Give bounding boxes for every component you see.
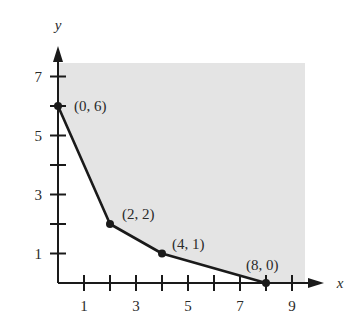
y-tick-label: 5 — [35, 128, 43, 144]
vertex-point — [54, 102, 62, 110]
x-tick-label: 1 — [80, 298, 88, 314]
vertex-point — [106, 220, 114, 228]
x-tick-label: 9 — [288, 298, 296, 314]
vertex-label: (0, 6) — [74, 98, 107, 115]
x-axis-label: x — [336, 275, 344, 291]
y-tick-label: 1 — [35, 246, 43, 262]
x-tick-label: 3 — [132, 298, 140, 314]
vertex-point — [262, 279, 270, 287]
y-tick-label: 7 — [35, 69, 43, 85]
y-tick-label: 3 — [35, 187, 43, 203]
feasible-region-chart: 1 3 5 7 9 1 3 5 7 x y (0, 6) (2, 2) (4, … — [0, 0, 355, 333]
vertex-label: (2, 2) — [122, 206, 155, 223]
x-axis-arrow-icon — [308, 278, 324, 288]
y-axis-arrow-icon — [53, 46, 63, 62]
vertex-label: (8, 0) — [246, 257, 279, 274]
x-tick-label: 5 — [184, 298, 192, 314]
vertex-point — [158, 250, 166, 258]
y-axis-label: y — [53, 17, 62, 33]
vertex-label: (4, 1) — [172, 236, 205, 253]
x-tick-label: 7 — [236, 298, 244, 314]
